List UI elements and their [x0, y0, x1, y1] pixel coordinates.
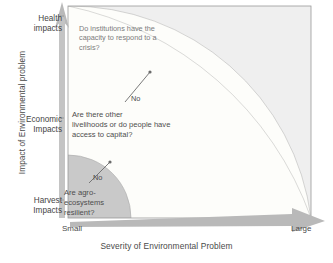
x-tick-label-large: Large [291, 224, 311, 233]
question-institutional-capacity: Do institutions have thecapacity to resp… [79, 24, 165, 52]
question-agro-resilience: Are agro-ecosystemsresilient? [64, 188, 118, 218]
annotation-no-inner: No [93, 173, 102, 182]
leader-dot-inner [108, 160, 111, 163]
annotation-no-outer: No [131, 94, 140, 103]
question-livelihoods-capital: Are there otherlivelihoods or do people … [72, 110, 176, 140]
x-axis-label: Severity of Environmental Problem [0, 241, 333, 251]
y-axis-label: Impact of Environmental problem [18, 47, 27, 179]
leader-dot-outer [148, 70, 151, 73]
y-tick-label-harvest: HarvestImpacts [12, 196, 62, 215]
y-tick-label-health: Healthimpacts [15, 14, 62, 33]
y-tick-label-economic: EconomicImpacts [12, 115, 62, 134]
x-tick-label-small: Small [62, 224, 82, 233]
diagram-figure: Impact of Environmental problem Healthim… [0, 0, 333, 263]
